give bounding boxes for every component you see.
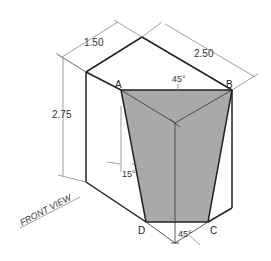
angle-bottom: 45° (178, 229, 192, 239)
vertex-label-b: B (226, 79, 233, 90)
dimension-height: 2.75 (52, 109, 72, 120)
vertex-label-d: D (138, 225, 145, 236)
dimension-width: 2.50 (194, 48, 214, 59)
angle-top: 45° (172, 74, 186, 84)
dimension-depth: 1.50 (84, 37, 104, 48)
vertex-label-c: C (210, 225, 217, 236)
shaded-face (121, 90, 232, 222)
front-view-label: FRONT VIEW (18, 192, 74, 228)
isometric-drawing: 1.50 2.50 2.75 A B C D 45° 15° 45° FRONT… (0, 0, 271, 261)
angle-side: 15° (122, 169, 136, 179)
vertex-label-a: A (115, 79, 122, 90)
